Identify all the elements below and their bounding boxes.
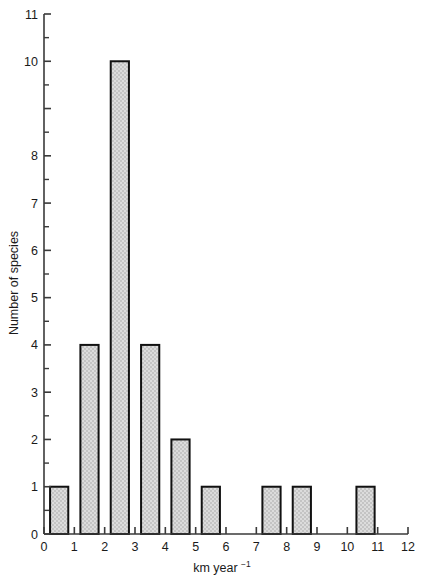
bar-rect (141, 345, 159, 534)
y-tick-label: 0 (31, 528, 38, 542)
bar (171, 439, 189, 534)
bar-rect (50, 487, 68, 534)
histogram-figure: 0123456781011 0123456789101112 Number of… (0, 0, 421, 581)
bar-rect (202, 487, 220, 534)
x-tick-label: 5 (192, 540, 199, 554)
bar (111, 61, 129, 534)
bar (356, 487, 374, 534)
bar-rect (80, 345, 98, 534)
y-axis: 0123456781011 (24, 8, 51, 542)
y-tick-label: 8 (31, 149, 38, 163)
y-tick-label: 2 (31, 433, 38, 447)
x-tick-label: 2 (101, 540, 108, 554)
bar-rect (356, 487, 374, 534)
x-tick-label: 10 (340, 540, 354, 554)
y-tick-label: 1 (31, 480, 38, 494)
bar-rect (171, 439, 189, 534)
bar (50, 487, 68, 534)
x-tick-label: 9 (314, 540, 321, 554)
y-axis-title: Number of species (7, 231, 21, 335)
y-tick-label: 11 (25, 8, 38, 22)
bar-rect (111, 61, 129, 534)
bar (202, 487, 220, 534)
y-tick-label: 10 (24, 55, 38, 69)
y-tick-label: 6 (31, 244, 38, 258)
bars-group (50, 61, 375, 534)
x-tick-label: 6 (223, 540, 230, 554)
chart-canvas: 0123456781011 0123456789101112 Number of… (0, 0, 421, 581)
x-tick-label: 3 (132, 540, 139, 554)
x-tick-label: 4 (162, 540, 169, 554)
y-tick-label: 4 (31, 338, 38, 352)
x-tick-label: 7 (253, 540, 260, 554)
bar (293, 487, 311, 534)
x-axis-title: km year −1 (193, 559, 251, 575)
bar (262, 487, 280, 534)
y-tick-label: 5 (31, 291, 38, 305)
x-tick-label: 0 (41, 540, 48, 554)
bar (141, 345, 159, 534)
bar-rect (293, 487, 311, 534)
x-tick-label: 1 (71, 540, 78, 554)
x-tick-label: 8 (283, 540, 290, 554)
bar-rect (262, 487, 280, 534)
x-tick-label: 11 (371, 540, 384, 554)
x-tick-label: 12 (401, 540, 415, 554)
bar (80, 345, 98, 534)
y-tick-label: 7 (31, 197, 38, 211)
y-tick-label: 3 (31, 386, 38, 400)
